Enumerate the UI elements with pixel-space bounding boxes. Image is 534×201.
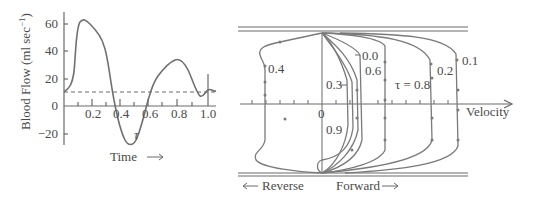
x-tick-0.4: 0.4	[113, 106, 130, 121]
x-tick-0.6: 0.6	[142, 106, 159, 121]
time-arrow-icon	[147, 154, 163, 160]
bottom-arrow-reverse-icon	[243, 183, 258, 189]
profile-tau-0.3	[322, 33, 348, 173]
y-tick-20: 20	[45, 71, 58, 86]
reverse-label: Reverse	[262, 178, 304, 193]
figure: 60 40 20 0 −20 0.2 0.4 0.6 0.8 1.0 τ Tim…	[0, 0, 534, 201]
y-tick-40: 40	[45, 43, 58, 58]
y-axis-label: Blood Flow (ml sec−1)	[17, 13, 33, 130]
x-tick-1.0: 1.0	[200, 106, 216, 121]
x-tick-0.8: 0.8	[171, 106, 187, 121]
y-tick-minus-20: −20	[38, 126, 58, 141]
forward-label: Forward	[336, 178, 381, 193]
profile-label-0.3: 0.3	[326, 77, 342, 92]
x-axis-label-time: Time	[110, 149, 137, 164]
origin-label: 0	[318, 106, 325, 121]
profile-tau-0.4	[255, 33, 322, 173]
profile-label-0.1: 0.1	[462, 53, 478, 68]
x-tick-0.2: 0.2	[85, 106, 101, 121]
y-tick-60: 60	[45, 16, 58, 31]
blood-flow-waveform	[64, 20, 216, 145]
bottom-arrow-forward-icon	[382, 183, 398, 189]
y-tick-0: 0	[52, 98, 59, 113]
profile-label-0.2: 0.2	[437, 63, 453, 78]
tau-annotation: τ	[134, 128, 139, 142]
velocity-axis-label: Velocity	[466, 104, 510, 119]
profile-label-0.6: 0.6	[365, 63, 382, 78]
profile-label-0.9: 0.9	[326, 122, 342, 137]
profile-label-0.0: 0.0	[362, 48, 378, 63]
profile-label-0.4: 0.4	[268, 61, 285, 76]
profile-label-tau-0.8: τ = 0.8	[395, 77, 430, 92]
